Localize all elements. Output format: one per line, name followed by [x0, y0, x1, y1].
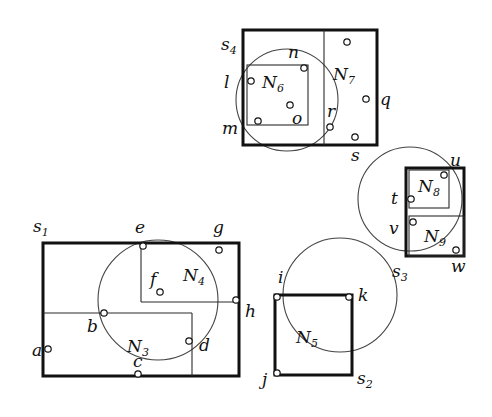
label-n5: N5 — [295, 327, 318, 350]
label-n7: N7 — [332, 64, 355, 87]
diagram-canvas: s4 l n o m r q s N6 N7 u t v w N8 N9 — [0, 0, 492, 417]
group-s4: s4 l n o m r q s N6 N7 — [221, 30, 391, 165]
diagram-svg: s4 l n o m r q s N6 N7 u t v w N8 N9 — [0, 0, 492, 417]
point-a-marker — [45, 346, 51, 352]
label-b: b — [87, 316, 98, 336]
label-n6: N6 — [261, 72, 284, 95]
label-q: q — [380, 89, 391, 109]
label-s2: s2 — [357, 368, 373, 391]
point-b-marker — [101, 310, 107, 316]
label-s: s — [351, 145, 360, 165]
label-t: t — [391, 188, 398, 208]
label-m: m — [222, 118, 238, 138]
point-s-marker — [352, 134, 358, 140]
point-q-marker — [363, 96, 369, 102]
label-f: f — [148, 269, 159, 289]
label-s3: s3 — [392, 261, 408, 284]
point-w-marker — [453, 247, 459, 253]
label-n4: N4 — [182, 265, 205, 288]
group-s1: s1 e g f h b a d c N4 N3 — [32, 216, 256, 377]
point-d-marker — [186, 338, 192, 344]
group-s2: i k j s2 s3 N5 — [258, 238, 408, 391]
point-g-marker — [216, 247, 222, 253]
group-s3: u t v w N8 N9 — [358, 147, 466, 276]
label-d: d — [199, 335, 210, 355]
point-h-marker — [233, 297, 239, 303]
label-n8: N8 — [417, 176, 440, 199]
label-k: k — [358, 285, 368, 305]
point-c-marker — [135, 371, 141, 377]
label-s1: s1 — [33, 216, 49, 239]
label-i: i — [278, 267, 283, 287]
point-f-marker — [157, 289, 163, 295]
point-v-marker — [410, 219, 416, 225]
point-l-marker — [248, 78, 254, 84]
point-t-marker — [408, 196, 414, 202]
rect-n5-outer — [275, 295, 352, 375]
point-n-marker — [301, 65, 307, 71]
label-g: g — [213, 217, 224, 237]
label-s4: s4 — [221, 34, 237, 57]
label-u: u — [450, 150, 461, 170]
point-k-marker — [346, 294, 352, 300]
label-w: w — [451, 256, 466, 276]
label-a: a — [32, 340, 42, 360]
point-u-marker — [441, 172, 447, 178]
label-o: o — [292, 108, 302, 128]
label-n: n — [288, 42, 299, 62]
label-h: h — [245, 301, 256, 321]
circle-s4 — [236, 49, 338, 151]
label-v: v — [389, 218, 399, 238]
label-n3: N3 — [126, 336, 149, 359]
point-n7-top-marker — [344, 39, 350, 45]
label-r: r — [327, 101, 336, 121]
point-e-marker — [140, 243, 146, 249]
label-j: j — [258, 369, 268, 389]
label-e: e — [135, 217, 145, 237]
label-l: l — [224, 72, 229, 92]
point-r-marker — [327, 124, 333, 130]
point-j-marker — [274, 370, 280, 376]
label-n9: N9 — [423, 226, 446, 249]
point-m-marker — [255, 118, 261, 124]
point-i-marker — [274, 294, 280, 300]
